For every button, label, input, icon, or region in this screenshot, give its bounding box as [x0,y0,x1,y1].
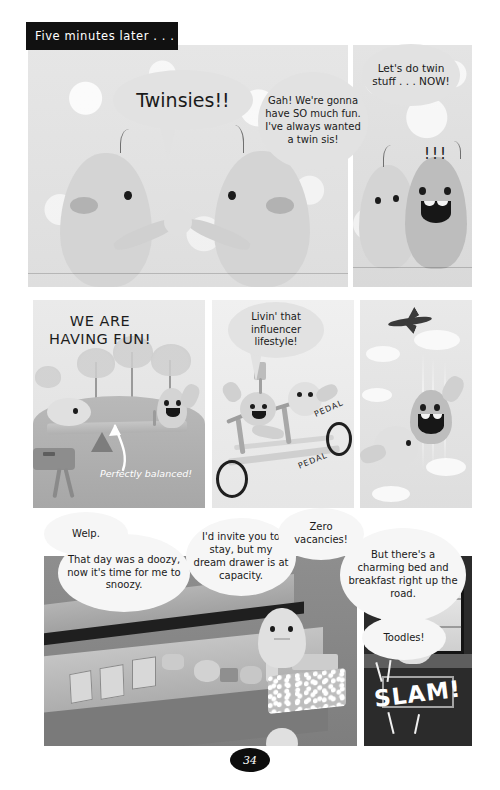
panel-skydiving [360,300,472,508]
clutter-object-a [162,654,184,670]
eye-rider-rear-a [297,392,302,397]
horizon-line-2 [353,267,472,268]
sprout-neutral [383,145,397,167]
tree-d [35,366,61,388]
camera-detail [43,452,55,456]
clutter-object-c [240,666,262,684]
pointing-arrow [99,420,133,472]
mouth-dresser-blob [274,638,290,640]
framed-photo-c [132,656,156,689]
high-five-hands [164,209,192,235]
excitement-marks: !!! [413,145,459,164]
small-stool [220,668,238,682]
sprout-left [120,129,136,153]
cloud-e [372,486,410,502]
eye-grin-b [444,187,451,195]
we-are-having-fun-text: WE ARE HAVING FUN! [44,312,156,348]
speech-bubble-gah: Gah! We're gonna have SO much fun. I've … [258,72,368,170]
speech-bubble-doozy: That day was a doozy, now it's time for … [58,534,190,612]
comic-page: !!! Twinsies!! Gah! We're gonna have SO … [0,0,500,790]
eye-rider-front-a [250,404,255,409]
caption-text: Five minutes later . . . [35,29,175,43]
speech-bubble-twinsies: Twinsies!! [113,70,253,130]
framed-photo-b [99,664,124,700]
eye-plank-blob [73,408,78,414]
mouth-cheer [166,408,180,417]
eye-falling-a [420,404,426,411]
eye-rider-front-b [262,404,267,409]
cloud-b [414,330,460,350]
seesaw-handle [153,410,156,426]
rider-front [240,392,276,426]
eye-falling-b [434,404,440,411]
horizon-line [28,273,348,274]
eye-cheer-a [164,400,169,406]
page-number-text: 34 [243,754,257,767]
eye-rider-rear-b [308,392,313,397]
caption-five-minutes-later: Five minutes later . . . [26,22,178,50]
bubble-tail-twinsies [160,126,176,160]
tree-a [77,348,115,378]
tree-c [151,344,191,376]
speech-bubble-twin-stuff: Let's do twin stuff . . . NOW! [362,44,460,106]
eye-dresser-blob-a [270,626,275,632]
perfectly-balanced-label: Perfectly balanced! [91,468,201,480]
eye-dresser-blob-b [288,626,293,632]
cloud-a [366,346,400,362]
speech-bubble-influencer: Livin' that influencer lifestyle! [228,302,324,358]
eye-grin-a [419,187,426,195]
speech-bubble-toodles: Toodles! [362,616,446,660]
eye-neutral-b [393,195,399,202]
eye-neutral-a [375,197,381,204]
speech-bubble-bnb: But there's a charming bed and breakfast… [340,528,466,622]
clutter-object-b [194,660,220,682]
blob-on-plank [47,398,91,426]
eye-falling-second [406,440,411,446]
cloud-c [362,388,392,402]
bike-wheel-front [216,460,248,498]
blush-left [70,197,98,214]
blush-right [266,197,294,214]
eye-left-blob [124,191,132,200]
page-number-badge: 34 [230,748,270,772]
framed-photo-a [69,670,93,704]
eye-right-blob [228,191,236,200]
